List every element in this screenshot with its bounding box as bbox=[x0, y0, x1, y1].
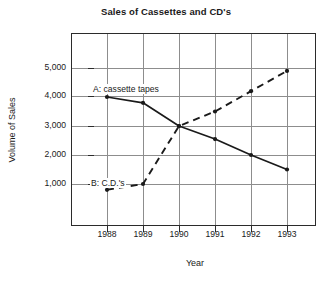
data-point bbox=[141, 182, 145, 186]
data-point bbox=[141, 101, 145, 105]
data-point bbox=[249, 153, 253, 157]
data-point bbox=[285, 167, 289, 171]
series-cassette-tapes bbox=[105, 95, 289, 172]
data-point bbox=[213, 109, 217, 113]
data-point bbox=[213, 137, 217, 141]
data-point bbox=[285, 69, 289, 73]
chart-container: Sales of Cassettes and CD's 5,000 4,000 … bbox=[0, 0, 332, 282]
series-layer bbox=[0, 0, 332, 282]
series-annotation-cds: B: C.D.'s bbox=[90, 178, 126, 188]
data-point bbox=[177, 124, 181, 128]
data-point bbox=[105, 188, 109, 192]
data-point bbox=[249, 89, 253, 93]
y-axis-title: Volume of Sales bbox=[7, 75, 17, 185]
series-annotation-cassettes: A: cassette tapes bbox=[92, 84, 160, 94]
x-axis-title: Year bbox=[0, 258, 332, 268]
series-line-cassettes bbox=[107, 97, 287, 170]
data-point bbox=[105, 95, 109, 99]
